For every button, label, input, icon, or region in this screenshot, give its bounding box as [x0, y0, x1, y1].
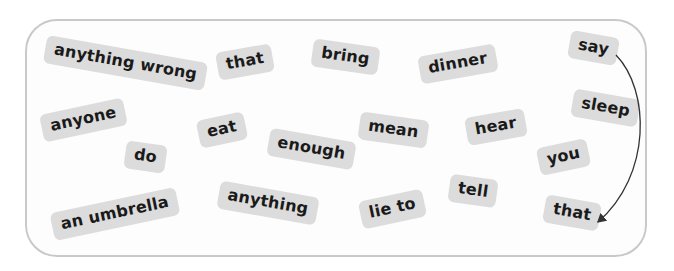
word-tile-do[interactable]: do — [123, 140, 167, 173]
